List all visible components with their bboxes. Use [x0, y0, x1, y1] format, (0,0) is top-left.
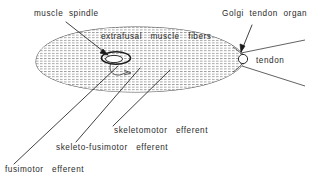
label-tendon: tendon: [256, 56, 284, 65]
label-fusimotor-efferent: fusimotor efferent: [5, 165, 84, 174]
label-skeleto-fusimotor-efferent: skeleto-fusimotor efferent: [56, 143, 168, 152]
label-muscle-spindle: muscle spindle: [34, 9, 99, 18]
label-extrafusal-muscle-fibers: extrafusal muscle fibers: [101, 32, 212, 41]
label-golgi-tendon-organ: Golgi tendon organ: [222, 9, 307, 18]
figure-canvas: muscle spindle extrafusal muscle fibers …: [0, 0, 309, 177]
golgi-tendon-organ-shape: [238, 54, 247, 63]
diagram-svg: muscle spindle extrafusal muscle fibers …: [0, 0, 309, 177]
leader-golgi: [240, 25, 252, 52]
label-skeletomotor-efferent: skeletomotor efferent: [114, 126, 208, 135]
